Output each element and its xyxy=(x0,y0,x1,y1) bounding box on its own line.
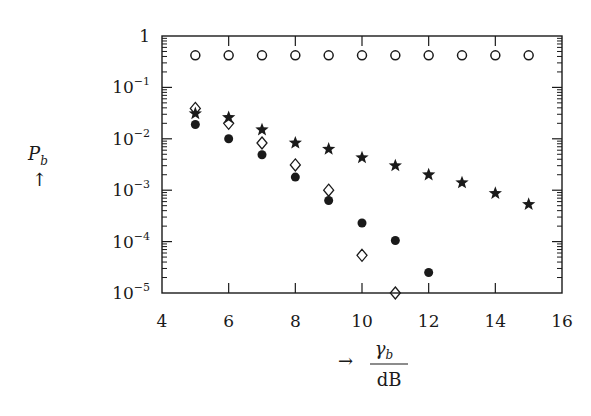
x-tick-label: 4 xyxy=(157,311,168,331)
data-marks xyxy=(189,51,536,299)
series-filled-circle xyxy=(191,120,433,277)
y-tick-label: 1 xyxy=(139,26,150,46)
data-point-filled-circle xyxy=(191,120,200,129)
data-point-open-circle xyxy=(524,51,533,60)
y-tick-label: 10−5 xyxy=(112,281,150,303)
x-axis-label-numerator: γb xyxy=(375,338,393,362)
data-point-open-circle xyxy=(224,51,233,60)
axes: 46810121416110−110−210−310−410−5 xyxy=(112,26,573,331)
data-point-open-diamond xyxy=(257,137,267,149)
series-open-diamond xyxy=(190,102,400,299)
data-point-star xyxy=(322,142,335,155)
series-star xyxy=(189,107,536,210)
x-axis-arrow: → xyxy=(338,350,353,371)
x-tick-label: 6 xyxy=(223,311,234,331)
y-axis-arrow: ↑ xyxy=(32,169,47,190)
data-point-filled-circle xyxy=(358,219,367,228)
data-point-filled-circle xyxy=(224,134,233,143)
data-point-open-circle xyxy=(291,51,300,60)
data-point-star xyxy=(522,197,535,210)
data-point-star xyxy=(355,151,368,164)
data-point-open-circle xyxy=(358,51,367,60)
x-axis-label-denominator: dB xyxy=(377,369,402,390)
data-point-open-circle xyxy=(324,51,333,60)
data-point-star xyxy=(389,159,402,172)
data-point-filled-circle xyxy=(291,173,300,182)
series-open-circle xyxy=(191,51,533,60)
x-tick-label: 16 xyxy=(551,311,573,331)
y-tick-label: 10−3 xyxy=(112,178,150,200)
data-point-open-diamond xyxy=(324,184,334,196)
data-point-open-diamond xyxy=(357,249,367,261)
x-tick-label: 14 xyxy=(485,311,507,331)
plot-frame xyxy=(162,36,562,293)
data-point-open-circle xyxy=(491,51,500,60)
data-point-open-circle xyxy=(191,51,200,60)
data-point-filled-circle xyxy=(324,196,333,205)
axis-labels: Pb ↑ → γb dB xyxy=(27,143,408,390)
data-point-star xyxy=(422,168,435,181)
data-point-star xyxy=(289,136,302,149)
chart: 46810121416110−110−210−310−410−5 Pb ↑ → … xyxy=(0,0,591,416)
data-point-open-circle xyxy=(458,51,467,60)
data-point-open-circle xyxy=(424,51,433,60)
data-point-open-circle xyxy=(258,51,267,60)
data-point-star xyxy=(455,176,468,189)
data-point-star xyxy=(255,123,268,136)
data-point-filled-circle xyxy=(391,236,400,245)
data-point-star xyxy=(489,186,502,199)
data-point-open-diamond xyxy=(290,159,300,171)
y-axis-label: Pb xyxy=(27,143,48,168)
x-tick-label: 10 xyxy=(351,311,373,331)
y-tick-label: 10−2 xyxy=(112,127,150,149)
data-point-open-circle xyxy=(391,51,400,60)
x-tick-label: 12 xyxy=(418,311,440,331)
data-point-filled-circle xyxy=(258,150,267,159)
y-tick-label: 10−4 xyxy=(112,230,150,252)
data-point-filled-circle xyxy=(424,268,433,277)
y-tick-label: 10−1 xyxy=(112,75,150,97)
x-tick-label: 8 xyxy=(290,311,301,331)
